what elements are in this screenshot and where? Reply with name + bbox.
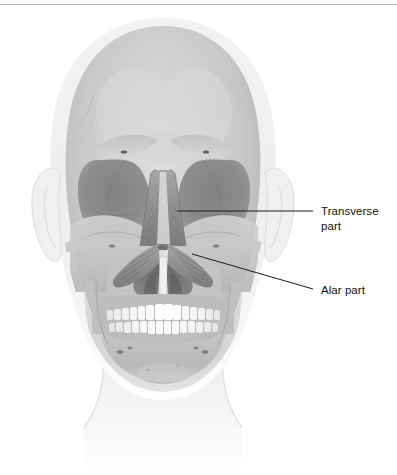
label-transverse-part: Transverse part <box>321 204 379 233</box>
ear-left-shape <box>32 168 61 261</box>
skull-illustration-svg <box>0 0 397 475</box>
teeth <box>92 294 234 334</box>
figure-page: Transverse part Alar part <box>0 0 397 475</box>
anatomy-illustration <box>0 0 397 475</box>
label-alar-part: Alar part <box>321 283 365 298</box>
ear-right-shape <box>265 168 294 261</box>
